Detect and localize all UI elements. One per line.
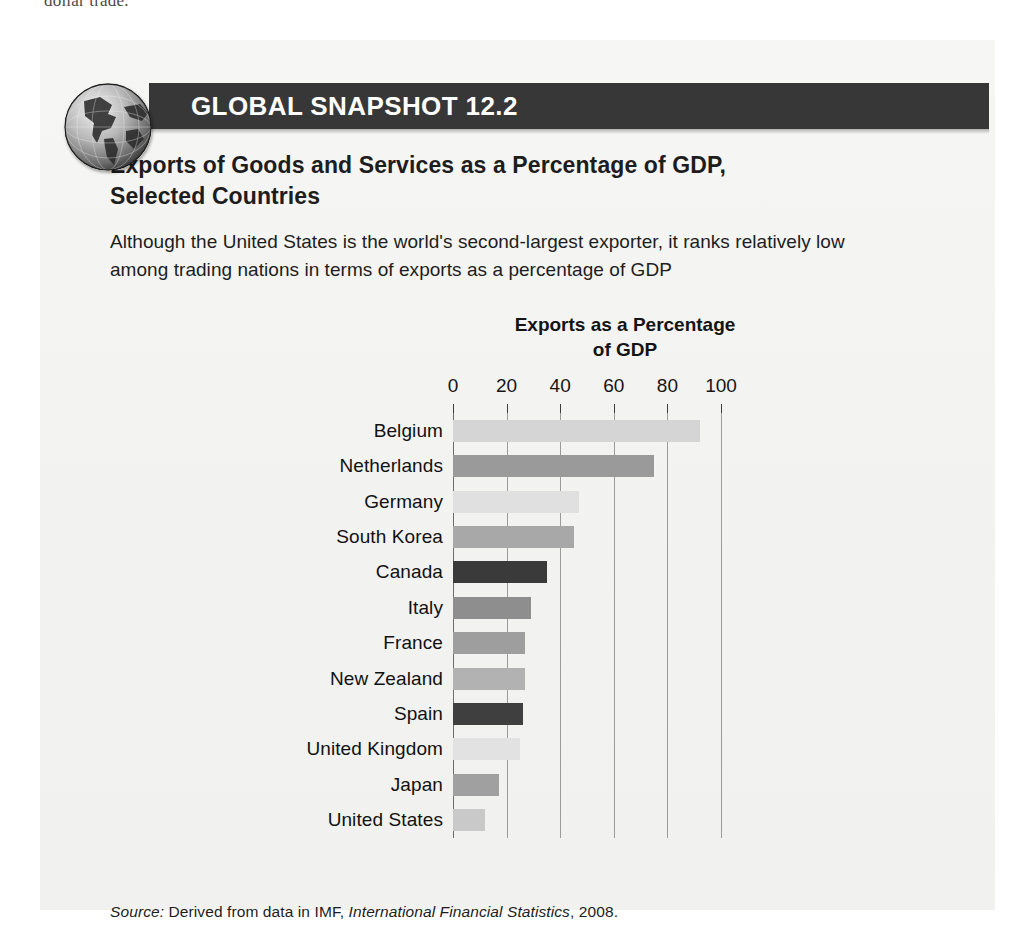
bar-category-label: France [383,631,443,655]
tick-60 [614,404,615,413]
source-publication-title: International Financial Statistics [349,903,570,920]
bar [453,738,520,760]
bar-row: France [453,632,721,654]
source-text-1: Derived from data in IMF, [164,903,348,920]
plot-area: 020406080100 BelgiumNetherlandsGermanySo… [453,413,721,838]
bar [453,455,654,477]
bar-category-label: Netherlands [339,454,443,478]
bar-row: United Kingdom [453,738,721,760]
bar-category-label: United Kingdom [306,737,443,761]
snapshot-title: GLOBAL SNAPSHOT 12.2 [191,91,518,122]
bar-chart: Exports as a Percentage of GDP 020406080… [40,40,995,910]
snapshot-header-bar: GLOBAL SNAPSHOT 12.2 [149,83,989,129]
bar-category-label: Germany [364,490,443,514]
tick-label-80: 80 [657,375,678,397]
bar [453,774,499,796]
tick-0 [453,404,454,413]
gridline-100 [721,413,722,838]
bar [453,561,547,583]
bar-row: Canada [453,561,721,583]
bar-row: South Korea [453,526,721,548]
bar-category-label: Italy [408,596,443,620]
tick-40 [560,404,561,413]
source-prefix: Source: [110,903,164,920]
header-bar-shadow [149,129,989,134]
bar-row: New Zealand [453,668,721,690]
tick-80 [667,404,668,413]
bar-row: Germany [453,491,721,513]
tick-label-0: 0 [448,375,459,397]
bar [453,632,525,654]
bar-row: Italy [453,597,721,619]
tick-20 [507,404,508,413]
bar-row: Netherlands [453,455,721,477]
bar-category-label: Canada [376,560,443,584]
bar-category-label: Japan [391,773,443,797]
bar-row: United States [453,809,721,831]
chart-axis-title: Exports as a Percentage of GDP [480,312,770,362]
tick-100 [721,404,722,413]
tick-label-20: 20 [496,375,517,397]
source-note: Source: Derived from data in IMF, Intern… [110,903,618,921]
bar [453,491,579,513]
bar-category-label: South Korea [336,525,443,549]
bar-category-label: Belgium [374,419,443,443]
tick-label-60: 60 [603,375,624,397]
tick-label-100: 100 [705,375,737,397]
bar-row: Japan [453,774,721,796]
source-text-2: , 2008. [570,903,618,920]
bar [453,597,531,619]
chart-title-line-1: Exports as a Percentage [515,314,736,335]
bar-row: Belgium [453,420,721,442]
bar [453,809,485,831]
bar-category-label: United States [328,808,443,832]
cut-off-running-text: dollar trade. [44,0,244,7]
bar-row: Spain [453,703,721,725]
tick-label-40: 40 [550,375,571,397]
bar [453,668,525,690]
bar [453,703,523,725]
bar-category-label: New Zealand [330,667,443,691]
bar [453,526,574,548]
bar-category-label: Spain [394,702,443,726]
chart-title-line-2: of GDP [593,339,657,360]
globe-icon [64,83,152,171]
bar [453,420,700,442]
global-snapshot-figure-panel: GLOBAL SNAPSHOT 12.2 Exports of Goods an… [40,40,995,910]
